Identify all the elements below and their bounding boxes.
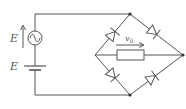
ac-source-icon (28, 31, 42, 45)
output-voltage-label: v0 (125, 34, 134, 44)
output-voltage-subscript: 0 (130, 37, 134, 44)
diode-lower-left-icon (105, 67, 120, 82)
ac-source-label: E (9, 32, 18, 45)
arrow-up-icon (21, 25, 26, 48)
node-right (181, 53, 184, 56)
diode-upper-right-icon (146, 24, 160, 39)
diode-lower-right-icon (144, 71, 158, 86)
battery-icon (24, 66, 46, 70)
battery-label: E (9, 60, 18, 73)
resistor-icon (117, 50, 144, 60)
bridge-lr (130, 55, 183, 95)
node-bottom (128, 93, 131, 96)
circuit-diagram: E E v0 (0, 0, 186, 109)
diode-upper-left-icon (105, 28, 120, 43)
node-top (128, 12, 131, 15)
